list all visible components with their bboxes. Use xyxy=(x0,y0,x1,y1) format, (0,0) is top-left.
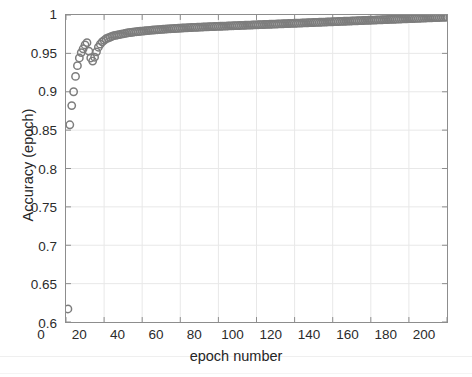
y-axis-title: Accuracy (epoch) xyxy=(20,85,36,245)
x-tick-label: 100 xyxy=(209,327,257,342)
y-tick-label: 0.65 xyxy=(5,277,57,292)
x-tick-label: 20 xyxy=(55,327,103,342)
x-tick-label: 40 xyxy=(94,327,142,342)
x-tick-label: 140 xyxy=(285,327,333,342)
x-tick-label: 120 xyxy=(247,327,295,342)
y-tick-label: 0.6 xyxy=(5,316,57,331)
scan-artifact-line xyxy=(0,373,472,374)
y-tick-label: 1 xyxy=(5,7,57,22)
scatter-series-accuracy xyxy=(66,15,447,322)
y-tick-label: 0.95 xyxy=(5,45,57,60)
x-tick-label: 0 xyxy=(17,327,65,342)
x-tick-label: 160 xyxy=(323,327,371,342)
x-tick-label: 60 xyxy=(132,327,180,342)
x-tick-label: 180 xyxy=(362,327,410,342)
x-tick-label: 80 xyxy=(170,327,218,342)
plot-area xyxy=(65,14,448,323)
x-tick-label: 200 xyxy=(400,327,448,342)
figure-canvas: 0.60.650.70.750.80.850.90.951 0204060801… xyxy=(0,0,472,377)
x-axis-title: epoch number xyxy=(0,348,472,364)
